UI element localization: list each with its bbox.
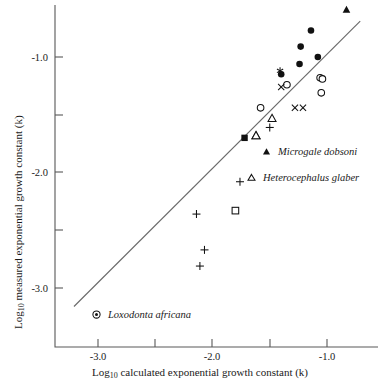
x-tick-label: -1.0 [319,351,336,362]
data-markers [192,6,350,270]
y-axis-ticks [55,57,63,288]
marker-plus [266,123,274,131]
x-tick-label: -3.0 [90,351,107,362]
regression-line [74,21,360,306]
marker-open-circle [318,90,325,97]
marker-filled-circle [297,43,304,50]
marker-open-circle [319,76,326,83]
marker-plus [236,178,244,186]
filled-triangle-icon [261,146,272,157]
x-axis-title-rest: calculated exponential growth constant (… [118,366,308,378]
marker-plus [192,210,200,218]
marker-plus [196,262,204,270]
x-axis-title-base: Log [92,366,110,378]
marker-open-circle [284,81,291,88]
legend-item-microgale-dobsoni: Microgale dobsoni [261,146,357,157]
y-axis-title-base: Log [12,311,24,329]
marker-x [278,84,284,90]
marker-plus [200,246,208,254]
marker-filled-triangle [343,6,351,13]
circled-dot-icon [91,309,102,320]
marker-open-triangle [252,132,260,139]
x-axis-tick-labels: -3.0 -2.0 -1.0 [90,351,336,362]
marker-open-square [232,207,239,214]
scatter-plot-figure: -1.0 -2.0 -3.0 -3.0 -2.0 -1.0 Log10 meas… [0,0,382,389]
y-tick-label: -1.0 [31,52,48,63]
marker-open-circle [257,105,264,112]
marker-filled-circle [296,61,303,68]
legend-label-microgale-dobsoni: Microgale dobsoni [278,146,357,157]
y-axis-tick-labels: -1.0 -2.0 -3.0 [31,52,48,294]
legend-label-loxodonta-africana: Loxodonta africana [108,309,191,320]
marker-filled-circle [315,54,322,61]
marker-filled-square [241,135,247,141]
marker-open-triangle [268,114,276,121]
y-tick-label: -3.0 [31,283,48,294]
legend-item-heterocephalus-glaber: Heterocephalus glaber [246,172,359,183]
y-tick-label: -2.0 [31,167,48,178]
legend-label-heterocephalus-glaber: Heterocephalus glaber [263,172,359,183]
x-axis-title-subscript: 10 [110,371,118,380]
marker-x [300,105,306,111]
plot-canvas: -1.0 -2.0 -3.0 -3.0 -2.0 -1.0 [0,0,382,389]
legend-item-loxodonta-africana: Loxodonta africana [91,309,191,320]
marker-x [292,105,298,111]
marker-filled-circle [308,27,315,34]
x-axis-ticks [98,339,327,347]
y-axis-title-rest: measured exponential growth constant (k) [12,115,24,303]
open-triangle-icon [246,172,257,183]
x-axis-title: Log10 calculated exponential growth cons… [92,366,308,380]
x-tick-label: -2.0 [204,351,221,362]
y-axis-title: Log10 measured exponential growth consta… [12,115,26,329]
y-axis-title-subscript: 10 [17,303,26,311]
